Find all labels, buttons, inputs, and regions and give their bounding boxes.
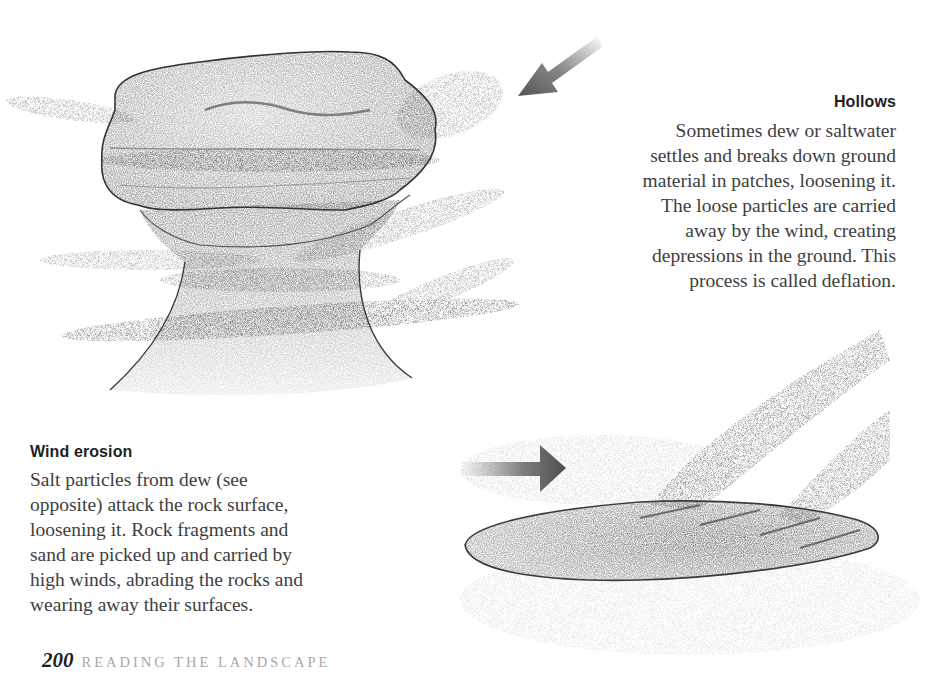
body-line: loosening it. Rock fragments and — [30, 517, 303, 542]
body-line: away by the wind, creating — [643, 218, 896, 243]
body-line: settles and breaks down ground — [643, 143, 896, 168]
hollows-heading: Hollows — [834, 93, 896, 111]
deflation-hollow-illustration — [460, 330, 920, 655]
wind-erosion-body: Salt particles from dew (see opposite) a… — [30, 467, 303, 617]
body-line: sand are picked up and carried by — [30, 542, 303, 567]
running-section-title: READING THE LANDSCAPE — [82, 654, 331, 670]
arrow-down-left-icon — [518, 36, 602, 96]
body-line: wearing away their surfaces. — [30, 592, 303, 617]
body-line: Salt particles from dew (see — [30, 467, 303, 492]
body-line: Sometimes dew or saltwater — [643, 118, 896, 143]
body-line: material in patches, loosening it. — [643, 168, 896, 193]
mushroom-rock-illustration — [4, 51, 520, 395]
page-number: 200 — [42, 648, 74, 672]
body-line: The loose particles are carried — [643, 193, 896, 218]
body-line: high winds, abrading the rocks and — [30, 567, 303, 592]
hollows-body: Sometimes dew or saltwater settles and b… — [643, 118, 896, 293]
wind-erosion-heading: Wind erosion — [30, 443, 132, 461]
body-line: opposite) attack the rock surface, — [30, 492, 303, 517]
body-line: process is called deflation. — [643, 268, 896, 293]
body-line: depressions in the ground. This — [643, 243, 896, 268]
page-footer: 200READING THE LANDSCAPE — [42, 648, 330, 673]
